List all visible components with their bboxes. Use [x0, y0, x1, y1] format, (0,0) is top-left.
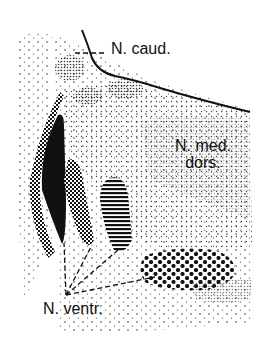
label-med-line2: dors.: [175, 154, 231, 171]
dorsal-blob-left: [73, 87, 103, 105]
label-nucleus-medialis-dorsalis: N. med. dors.: [175, 137, 231, 171]
label-nucleus-ventralis: N. ventr.: [43, 300, 103, 317]
ventral-nucleus-bigdots: [141, 248, 236, 290]
label-med-line1: N. med.: [175, 137, 231, 154]
nucleus-caudalis: [55, 55, 85, 81]
label-nucleus-caudalis: N. caud.: [111, 40, 171, 57]
